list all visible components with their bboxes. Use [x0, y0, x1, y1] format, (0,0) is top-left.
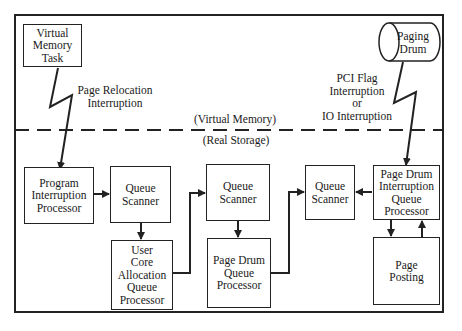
edge-label-pci-flag: PCI Flag Interruption or IO Interruption — [317, 72, 397, 122]
node-queue-scanner-1: Queue Scanner — [110, 166, 171, 223]
lightning-pci-flag — [394, 62, 416, 165]
node-virtual-memory-task: Virtual Memory Task — [23, 24, 82, 67]
node-program-interruption-processor: Program Interruption Processor — [24, 167, 94, 224]
edge-label-page-relocation: Page Relocation Interruption — [70, 84, 160, 109]
node-queue-scanner-3: Queue Scanner — [305, 165, 355, 220]
region-label-virtual-memory: (Virtual Memory) — [190, 113, 280, 126]
node-page-posting: Page Posting — [373, 237, 440, 305]
lightning-page-relocation — [50, 68, 72, 169]
region-label-real-storage: (Real Storage) — [196, 134, 276, 147]
label-paging-drum: Paging Drum — [396, 30, 430, 55]
node-page-drum-interruption-queue-processor: Page Drum Interruption Queue Processor — [373, 165, 440, 220]
node-user-core-allocation-queue-processor: User Core Allocation Queue Processor — [111, 240, 173, 310]
node-queue-scanner-2: Queue Scanner — [206, 164, 270, 221]
node-page-drum-queue-processor: Page Drum Queue Processor — [207, 238, 271, 308]
